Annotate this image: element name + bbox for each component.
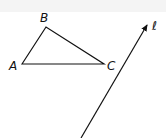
- line-l: [81, 25, 147, 138]
- geometry-diagram: A B C ℓ: [0, 0, 166, 138]
- line-label-l: ℓ: [151, 19, 157, 33]
- vertex-label-b: B: [40, 11, 48, 25]
- vertex-label-a: A: [8, 59, 17, 73]
- triangle-abc: [22, 27, 104, 64]
- vertex-label-c: C: [107, 59, 116, 73]
